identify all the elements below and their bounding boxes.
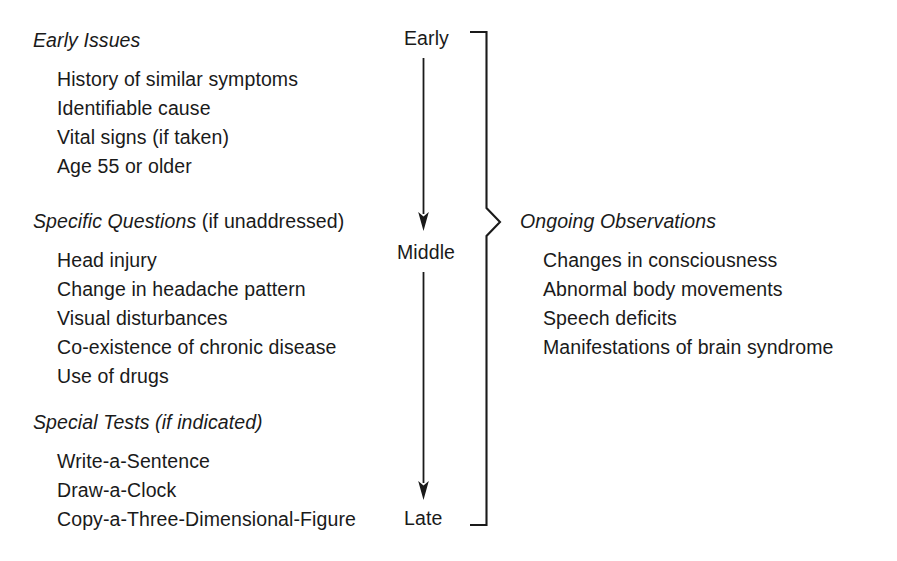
timeline-stage-label-middle: Middle	[397, 241, 455, 264]
diagram-canvas: Early Issues History of similar symptoms…	[0, 0, 897, 561]
group-heading-qualifier: (if indicated)	[150, 411, 263, 433]
timeline-stage-label-late: Late	[404, 507, 442, 530]
group-heading-qualifier: (if unaddressed)	[196, 210, 344, 232]
list-item: Manifestations of brain syndrome	[543, 333, 833, 362]
timeline-stage-label-early: Early	[404, 27, 449, 50]
group-heading-main: Early Issues	[33, 29, 140, 51]
item-list-specific-questions: Head injury Change in headache pattern V…	[57, 246, 344, 391]
item-list-ongoing-observations: Changes in consciousness Abnormal body m…	[543, 246, 833, 362]
group-heading-ongoing-observations: Ongoing Observations	[520, 207, 833, 236]
list-item: Age 55 or older	[57, 152, 298, 181]
item-list-special-tests: Write-a-Sentence Draw-a-Clock Copy-a-Thr…	[57, 447, 356, 534]
list-item: Copy-a-Three-Dimensional-Figure	[57, 505, 356, 534]
list-item: Changes in consciousness	[543, 246, 833, 275]
list-item: Vital signs (if taken)	[57, 123, 298, 152]
arrow-middle-to-late	[418, 272, 429, 500]
group-heading-early-issues: Early Issues	[33, 26, 298, 55]
list-item: Use of drugs	[57, 362, 344, 391]
group-early-issues: Early Issues History of similar symptoms…	[33, 26, 298, 181]
list-item: Co-existence of chronic disease	[57, 333, 344, 362]
group-heading-specific-questions: Specific Questions (if unaddressed)	[33, 207, 344, 236]
group-heading-special-tests: Special Tests (if indicated)	[33, 408, 356, 437]
list-item: Speech deficits	[543, 304, 833, 333]
group-special-tests: Special Tests (if indicated) Write-a-Sen…	[33, 408, 356, 534]
list-item: Change in headache pattern	[57, 275, 344, 304]
item-list-early-issues: History of similar symptoms Identifiable…	[57, 65, 298, 181]
arrow-early-to-middle	[418, 58, 429, 231]
group-specific-questions: Specific Questions (if unaddressed) Head…	[33, 207, 344, 391]
list-item: History of similar symptoms	[57, 65, 298, 94]
group-heading-main: Specific Questions	[33, 210, 196, 232]
list-item: Abnormal body movements	[543, 275, 833, 304]
group-ongoing-observations: Ongoing Observations Changes in consciou…	[520, 207, 833, 362]
list-item: Identifiable cause	[57, 94, 298, 123]
list-item: Write-a-Sentence	[57, 447, 356, 476]
list-item: Head injury	[57, 246, 344, 275]
group-heading-main: Ongoing Observations	[520, 210, 716, 232]
group-heading-main: Special Tests	[33, 411, 150, 433]
list-item: Draw-a-Clock	[57, 476, 356, 505]
list-item: Visual disturbances	[57, 304, 344, 333]
